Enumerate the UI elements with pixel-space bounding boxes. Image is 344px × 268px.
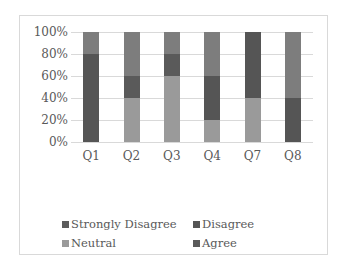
bar-q8 [285, 32, 301, 142]
gridline [71, 142, 313, 143]
legend-item-disagree: Disagree [193, 217, 254, 231]
bar-segment-agree [204, 32, 220, 76]
bar-segment-disagree [164, 54, 180, 76]
legend-label: Agree [202, 236, 237, 250]
bar-segment-disagree [285, 98, 301, 142]
y-tick-label: 80% [18, 47, 68, 61]
y-tick-label: 0% [18, 135, 68, 149]
legend-label: Strongly Disagree [71, 217, 177, 231]
bar-segment-neutral [124, 98, 140, 142]
gridline [71, 32, 313, 33]
plot-area [71, 32, 313, 142]
x-tick-label: Q2 [112, 149, 152, 163]
legend-label: Neutral [71, 236, 116, 250]
bar-q2 [124, 32, 140, 142]
bar-segment-agree [83, 32, 99, 54]
x-tick-label: Q7 [233, 149, 273, 163]
x-tick-label: Q3 [152, 149, 192, 163]
gridline [71, 76, 313, 77]
bar-q1 [83, 32, 99, 142]
bar-segment-disagree [124, 76, 140, 98]
gridline [71, 98, 313, 99]
bar-q7 [245, 32, 261, 142]
x-tick-label: Q1 [71, 149, 111, 163]
bar-segment-neutral [204, 120, 220, 142]
y-tick-label: 60% [18, 69, 68, 83]
gridline [71, 54, 313, 55]
legend-label: Disagree [202, 217, 254, 231]
legend-swatch [62, 221, 69, 228]
bar-q4 [204, 32, 220, 142]
bar-q3 [164, 32, 180, 142]
legend-item-agree: Agree [193, 236, 237, 250]
legend-swatch [193, 240, 200, 247]
bar-segment-neutral [245, 98, 261, 142]
bar-segment-disagree [245, 32, 261, 98]
bar-segment-agree [124, 32, 140, 76]
gridline [71, 120, 313, 121]
y-tick-label: 100% [18, 25, 68, 39]
legend-item-neutral: Neutral [62, 236, 116, 250]
bar-segment-agree [164, 32, 180, 54]
bar-segment-agree [285, 32, 301, 98]
bar-segment-neutral [164, 76, 180, 142]
legend-swatch [193, 221, 200, 228]
legend: Strongly Disagree Disagree Neutral Agree [62, 217, 302, 253]
bar-segment-disagree [204, 76, 220, 120]
legend-item-strongly-disagree: Strongly Disagree [62, 217, 177, 231]
legend-swatch [62, 240, 69, 247]
x-tick-label: Q4 [192, 149, 232, 163]
bar-segment-disagree [83, 54, 99, 142]
x-tick-label: Q8 [273, 149, 313, 163]
y-tick-label: 20% [18, 113, 68, 127]
y-tick-label: 40% [18, 91, 68, 105]
